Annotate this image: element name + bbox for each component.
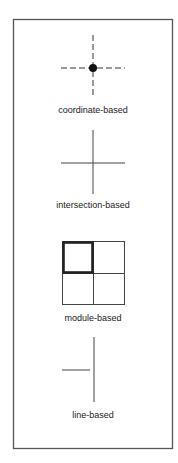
coordinate-based-icon [61,35,125,98]
line-based-icon [62,337,94,402]
diagram-canvas [0,0,178,463]
coordinate-based-label: coordinate-based [13,105,173,116]
intersection-based-label: intersection-based [13,200,173,211]
diagram-figure: coordinate-based intersection-based modu… [0,0,178,463]
module-based-icon [63,242,125,305]
intersection-based-icon [61,130,125,194]
module-based-label: module-based [13,313,173,324]
line-based-label: line-based [13,410,173,421]
